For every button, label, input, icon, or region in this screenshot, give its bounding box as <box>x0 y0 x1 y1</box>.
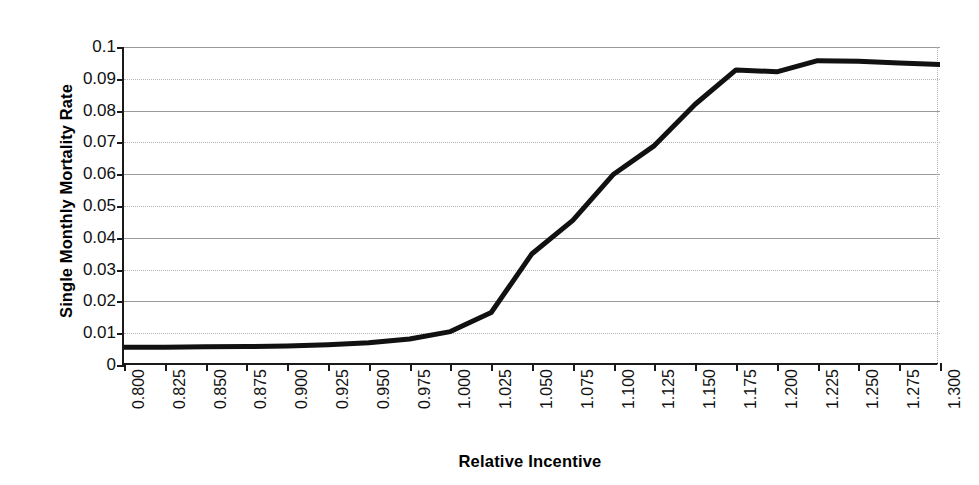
x-axis-tick-mark <box>940 363 942 371</box>
x-axis-tick-label: 1.175 <box>742 369 760 443</box>
x-axis-tick-label: 0.925 <box>334 369 352 443</box>
y-axis-tick-label: 0.06 <box>58 165 116 182</box>
x-axis-tick-label: 1.025 <box>497 369 515 443</box>
y-axis-tick-mark <box>117 142 124 144</box>
y-axis-tick-label: 0.04 <box>58 229 116 246</box>
y-axis-tick-mark <box>117 238 124 240</box>
y-axis-tick-mark <box>117 270 124 272</box>
x-axis-tick-label: 1.150 <box>701 369 719 443</box>
x-axis-tick-label: 1.050 <box>538 369 556 443</box>
y-axis-tick-mark <box>117 333 124 335</box>
x-axis-tick-label: 1.125 <box>660 369 678 443</box>
x-axis-tick-label: 0.850 <box>212 369 230 443</box>
x-axis-title: Relative Incentive <box>122 452 938 471</box>
x-axis-tick-label: 1.000 <box>456 369 474 443</box>
y-axis-tick-mark <box>117 206 124 208</box>
y-axis-tick-label: 0.09 <box>58 70 116 87</box>
y-axis-tick-mark <box>117 79 124 81</box>
y-axis-tick-mark <box>117 365 124 367</box>
x-axis-tick-label: 0.875 <box>252 369 270 443</box>
x-axis-tick-label: 1.075 <box>579 369 597 443</box>
y-axis-tick-label: 0.05 <box>58 197 116 214</box>
x-axis-tick-label: 1.250 <box>864 369 882 443</box>
chart-figure: Single Monthly Mortality Rate 0.10.090.0… <box>0 0 979 485</box>
y-axis-tick-label: 0.07 <box>58 133 116 150</box>
y-axis-tick-label: 0.03 <box>58 261 116 278</box>
y-axis-tick-mark <box>117 111 124 113</box>
y-axis-tick-labels: 0.10.090.080.070.060.050.040.030.020.010 <box>56 0 116 485</box>
y-axis-tick-label: 0 <box>58 356 116 373</box>
x-axis-tick-label: 0.800 <box>130 369 148 443</box>
y-axis-tick-label: 0.01 <box>58 324 116 341</box>
y-axis-tick-label: 0.08 <box>58 102 116 119</box>
x-axis-tick-label: 1.300 <box>946 369 964 443</box>
x-axis-tick-label: 0.825 <box>171 369 189 443</box>
x-axis-tick-label: 1.275 <box>905 369 923 443</box>
mortality-rate-curve <box>124 47 940 365</box>
x-axis-tick-label: 0.975 <box>416 369 434 443</box>
x-axis-tick-label: 1.225 <box>824 369 842 443</box>
y-axis-tick-mark <box>117 47 124 49</box>
x-axis-tick-label: 1.200 <box>783 369 801 443</box>
x-axis-tick-labels: 0.8000.8250.8500.8750.9000.9250.9500.975… <box>122 371 938 445</box>
x-axis-tick-label: 0.950 <box>375 369 393 443</box>
y-axis-tick-label: 0.02 <box>58 292 116 309</box>
data-series-line <box>124 47 940 365</box>
plot-area <box>122 47 938 365</box>
y-axis-tick-label: 0.1 <box>58 38 116 55</box>
x-axis-tick-label: 1.100 <box>620 369 638 443</box>
y-axis-tick-mark <box>117 301 124 303</box>
y-axis-tick-mark <box>117 174 124 176</box>
x-axis-tick-label: 0.900 <box>293 369 311 443</box>
